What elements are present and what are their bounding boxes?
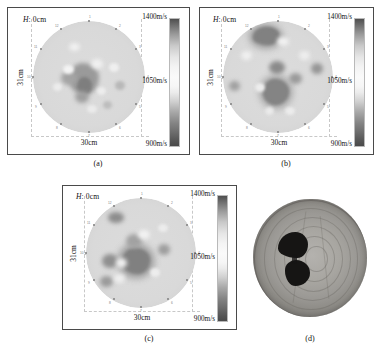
panel-b-sensor-label-6: 6 [308, 126, 310, 130]
panel-b-high-velocity-pocket-3 [299, 51, 310, 60]
panel-c-sensor-7 [140, 306, 142, 308]
panel-b-sensor-label-11: 11 [224, 45, 227, 49]
panel-c-high-velocity-pocket-4 [150, 268, 160, 277]
panel-a-colorbar-max-label: 1400m/s [121, 13, 167, 21]
panel-a-sensor-9 [40, 103, 42, 105]
panel-c-sensor-label-10: 10 [80, 251, 84, 255]
panel-d-trunk-cross-section [253, 199, 367, 317]
panel-b-colorbar [354, 18, 365, 147]
panel-c-sensor-label-2: 2 [171, 201, 173, 205]
panel-c-sensor-label-5: 5 [190, 281, 192, 285]
panel-c-guide-horizontal-bottom [84, 311, 200, 312]
panel-c-high-velocity-pocket-2 [116, 258, 127, 268]
panel-a-sensor-5 [135, 103, 137, 105]
panel-c-sensor-label-1: 1 [141, 192, 143, 196]
panel-a-high-velocity-pocket-3 [109, 63, 119, 72]
panel-b-sensor-11 [230, 48, 232, 50]
panel-b-sensor-3 [323, 48, 325, 50]
panel-a-high-velocity-pocket-2 [91, 59, 103, 69]
panel-c-sensor-1 [140, 197, 142, 199]
panel-c-sensor-6 [167, 298, 169, 300]
panel-b-low-velocity-right [289, 73, 302, 84]
panel-b-sensor-8 [250, 123, 252, 125]
panel-b-sensor-5 [323, 103, 325, 105]
panel-b-low-velocity-center-halo [259, 75, 293, 109]
panel-a-sensor-label-9: 9 [35, 105, 37, 109]
panel-a-high-velocity-pocket-7 [87, 105, 97, 113]
panel-a-sensor-label-2: 2 [119, 24, 121, 28]
panel-b-low-velocity-far-right [311, 63, 323, 74]
panel-b-caption: (b) [256, 159, 316, 168]
panel-b-sensor-12 [250, 28, 252, 30]
panel-c-low-velocity-upper-left [108, 212, 124, 223]
panel-c-high-velocity-pocket-3 [114, 274, 125, 283]
panel-b-sensor-label-8: 8 [246, 126, 248, 130]
panel-b-high-velocity-pocket-4 [255, 83, 265, 92]
panel-a-sensor-12 [60, 28, 62, 30]
panel-b-sensor-label-12: 12 [245, 24, 249, 28]
panel-b: H: 0cm [199, 7, 374, 155]
panel-a-high-velocity-pocket-6 [53, 83, 62, 91]
panel-c-sensor-11 [93, 224, 95, 226]
panel-a-sensor-label-1: 1 [89, 15, 91, 19]
panel-b-colorbar-min-label: 900m/s [306, 140, 352, 148]
panel-c-ylabel: 31cm [69, 237, 78, 271]
panel-a-low-velocity-arm-lower [75, 91, 89, 103]
panel-c-sensor-label-11: 11 [87, 221, 90, 225]
panel-a-high-velocity-pocket-5 [69, 43, 80, 51]
panel-c-xlabel: 30cm [112, 313, 172, 322]
panel-b-sensor-label-10: 10 [217, 75, 221, 79]
panel-c-inner: H: 0cm [62, 185, 237, 330]
panel-a-colorbar [169, 18, 180, 147]
panel-c-sensor-label-9: 9 [88, 281, 90, 285]
panel-b-sensor-label-9: 9 [225, 105, 227, 109]
panel-a-high-velocity-pocket-1 [63, 65, 74, 74]
panel-b-sensor-10 [222, 76, 224, 78]
panel-b-sensor-1 [277, 20, 279, 22]
panel-b-high-velocity-pocket-1 [277, 37, 289, 46]
panel-c-sensor-9 [93, 279, 95, 281]
panel-a-sensor-11 [40, 48, 42, 50]
panel-d-bark-ring [254, 200, 367, 317]
panel-c-high-velocity-pocket-5 [158, 224, 168, 232]
figure-root: H: 0cm [0, 0, 381, 359]
panel-c-sensor-8 [113, 298, 115, 300]
panel-b-sensor-7 [277, 131, 279, 133]
panel-a-inner: H: 0cm [7, 7, 190, 155]
panel-b-high-velocity-pocket-5 [285, 107, 295, 115]
panel-b-sensor-label-5: 5 [327, 105, 329, 109]
panel-b-sensor-label-1: 1 [278, 15, 280, 19]
panel-c-sensor-label-8: 8 [109, 301, 111, 305]
panel-a-sensor-6 [115, 123, 117, 125]
panel-c-sensor-10 [85, 252, 87, 254]
panel-b-sensor-label-2: 2 [308, 24, 310, 28]
panel-a-sensor-label-5: 5 [139, 105, 141, 109]
panel-b-sensor-6 [304, 123, 306, 125]
panel-c-sensor-5 [186, 279, 188, 281]
panel-c-sensor-12 [113, 205, 115, 207]
panel-b-high-velocity-pocket-2 [241, 51, 252, 60]
panel-a-high-velocity-pocket-4 [97, 87, 106, 95]
panel-a-sensor-8 [60, 123, 62, 125]
panel-a-caption: (a) [68, 159, 128, 168]
panel-a-sensor-label-6: 6 [119, 126, 121, 130]
panel-b-colorbar-mid-label: 1050m/s [306, 77, 352, 85]
panel-c-high-velocity-pocket-1 [138, 230, 150, 239]
panel-a-sensor-label-10: 10 [27, 75, 31, 79]
panel-a-sensor-10 [32, 76, 34, 78]
panel-b-low-velocity-mid [269, 61, 285, 74]
panel-b-sensor-9 [230, 103, 232, 105]
panel-a-ylabel: 31cm [16, 61, 25, 95]
panel-a-sensor-3 [135, 48, 137, 50]
panel-c-colorbar-mid-label: 1050m/s [169, 253, 215, 261]
panel-a: H: 0cm [7, 7, 190, 155]
panel-c-sensor-label-6: 6 [171, 301, 173, 305]
panel-c-caption: (c) [119, 334, 179, 343]
panel-c-sensor-label-3: 3 [190, 221, 192, 225]
panel-a-sensor-1 [88, 20, 90, 22]
panel-b-ylabel: 31cm [206, 61, 215, 95]
panel-b-guide-horizontal-bottom [221, 136, 337, 137]
panel-d-caption: (d) [280, 334, 340, 343]
panel-c-colorbar [217, 195, 228, 322]
panel-a-colorbar-min-label: 900m/s [121, 140, 167, 148]
